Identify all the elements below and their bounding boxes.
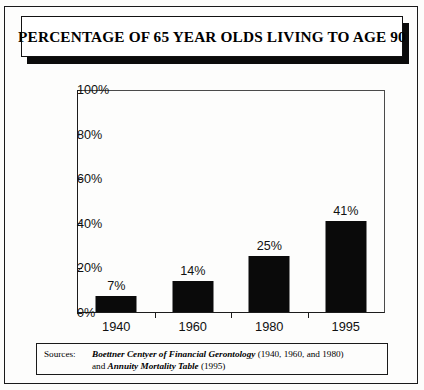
y-axis-tick-mark (77, 90, 82, 91)
bar-value-label: 41% (333, 204, 358, 218)
x-axis-tick-label: 1960 (179, 319, 207, 334)
x-axis-tick-mark (155, 312, 156, 318)
source-1-years: (1940, 1960, and 1980) (255, 349, 343, 359)
y-axis-tick-mark (77, 313, 82, 314)
bar-chart: 7%194014%196025%198041%1995 0%20%40%60%8… (0, 0, 424, 390)
y-axis-tick-mark (77, 179, 82, 180)
y-axis-tick-mark (77, 268, 82, 269)
source-1-title: Boettner Centyer of Financial Gerontolog… (92, 349, 255, 359)
x-axis-tick-label: 1940 (102, 319, 130, 334)
bar-group: 7%194014%196025%198041%1995 (78, 91, 384, 312)
bar-cell: 7%1940 (78, 91, 155, 312)
bar-value-label: 14% (180, 264, 205, 278)
y-axis-tick-mark (77, 223, 82, 224)
sources-label: Sources: (44, 349, 92, 359)
bar[interactable] (325, 221, 366, 312)
x-axis-tick-label: 1980 (255, 319, 283, 334)
bar[interactable] (96, 296, 137, 312)
bar-cell: 25%1980 (231, 91, 308, 312)
sources-citation: Boettner Centyer of Financial Gerontolog… (92, 349, 344, 372)
bar-value-label: 25% (257, 239, 282, 253)
bar-cell: 41%1995 (308, 91, 385, 312)
source-2-years: (1995) (199, 361, 226, 371)
bar[interactable] (249, 256, 290, 312)
chart-page: PERCENTAGE OF 65 YEAR OLDS LIVING TO AGE… (0, 0, 424, 390)
sources-box: Sources: Boettner Centyer of Financial G… (36, 343, 388, 375)
x-axis-tick-label: 1995 (332, 319, 360, 334)
bar[interactable] (172, 281, 213, 312)
x-axis-tick-mark (308, 312, 309, 318)
y-axis-tick-mark (77, 134, 82, 135)
plot-area: 7%194014%196025%198041%1995 (77, 90, 385, 313)
source-2-lead: and (92, 361, 108, 371)
y-axis-tick-label: 100% (77, 83, 113, 97)
x-axis-tick-mark (231, 312, 232, 318)
source-2-title: Annuity Mortality Table (108, 361, 199, 371)
bar-value-label: 7% (107, 279, 125, 293)
bar-cell: 14%1960 (155, 91, 232, 312)
